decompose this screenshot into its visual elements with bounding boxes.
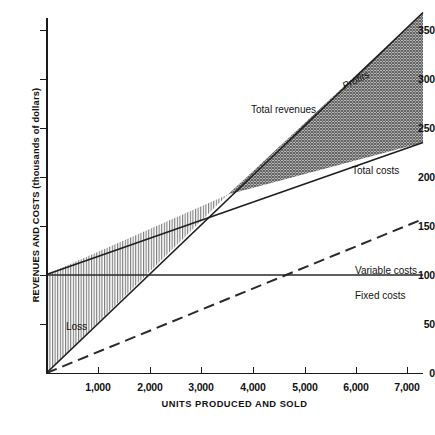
y-tick-200 [40, 177, 47, 178]
x-tick-label-3000: 3,000 [178, 381, 224, 393]
label-fixed-costs: Fixed costs [355, 290, 406, 301]
label-loss-region: Loss [66, 321, 87, 332]
break-even-chart: 350 300 250 200 150 100 50 0 1,000 2,000… [0, 0, 435, 435]
label-variable-costs: Variable costs [355, 265, 417, 276]
y-axis-line [46, 18, 48, 374]
x-tick-3000 [201, 367, 202, 374]
x-tick-label-2000: 2,000 [127, 381, 173, 393]
x-axis-line [46, 373, 423, 374]
y-tick-label-200: 200 [401, 172, 435, 182]
total-revenues-line [47, 13, 424, 374]
y-tick-50 [40, 324, 47, 325]
y-axis-title: REVENUES AND COSTS (thousands of dollars… [31, 55, 41, 335]
y-tick-150 [40, 226, 47, 227]
x-tick-label-1000: 1,000 [75, 381, 121, 393]
total-costs-line [47, 143, 424, 275]
x-tick-5000 [305, 367, 306, 374]
y-tick-250 [40, 128, 47, 129]
x-tick-6000 [356, 367, 357, 374]
x-tick-label-7000: 7,000 [384, 381, 430, 393]
y-tick-100 [40, 275, 47, 276]
y-tick-label-350: 350 [401, 25, 435, 35]
x-tick-label-6000: 6,000 [333, 381, 379, 393]
y-tick-label-50: 50 [401, 319, 435, 329]
y-tick-label-250: 250 [401, 123, 435, 133]
y-tick-label-150: 150 [401, 221, 435, 231]
x-tick-4000 [253, 367, 254, 374]
y-tick-300 [40, 79, 47, 80]
x-axis-title: UNITS PRODUCED AND SOLD [46, 399, 423, 409]
x-tick-2000 [150, 367, 151, 374]
y-tick-350 [40, 30, 47, 31]
plot-area [0, 0, 435, 435]
x-tick-7000 [407, 367, 408, 374]
label-total-revenues: Total revenues [251, 104, 316, 115]
label-total-costs: Total costs [352, 165, 399, 176]
x-tick-1000 [98, 367, 99, 374]
x-tick-label-5000: 5,000 [282, 381, 328, 393]
y-tick-label-300: 300 [401, 74, 435, 84]
x-tick-label-4000: 4,000 [230, 381, 276, 393]
